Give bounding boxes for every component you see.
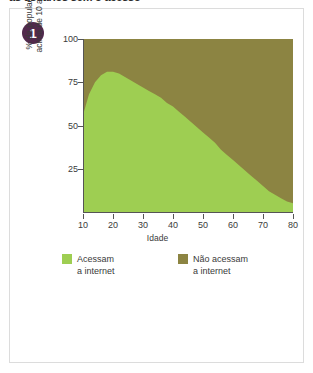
x-tick-mark-50 [203,214,204,219]
y-axis-tick-75: 75 [52,77,78,87]
x-axis-tick-30: 30 [138,220,148,230]
x-tick-mark-70 [263,214,264,219]
x-axis-tick-50: 50 [198,220,208,230]
chart-plot-wrapper: % da população acima de 10 anos 25507510… [10,9,305,259]
legend-label: Acessama internet [77,254,115,277]
y-axis-tick-labels: 255075100 [52,9,78,259]
y-axis-tick-25: 25 [52,164,78,174]
legend-swatch-icon [62,254,72,264]
x-tick-mark-20 [113,214,114,219]
y-axis-label-line2: acima de 10 anos [34,0,44,69]
x-axis-tick-40: 40 [168,220,178,230]
plot-area [83,39,293,212]
y-axis-line [83,39,84,212]
x-axis-tick-10: 10 [78,220,88,230]
legend-label: Não acessama internet [193,254,248,277]
x-tick-mark-40 [173,214,174,219]
x-axis-tick-70: 70 [258,220,268,230]
y-axis-tick-50: 50 [52,121,78,131]
legend-swatch-icon [178,254,188,264]
x-axis-line [83,212,293,213]
y-tick-mark-100 [78,39,83,40]
legend-item-1[interactable]: Acessama internet [62,254,115,277]
x-axis-tick-80: 80 [288,220,298,230]
y-axis-label-line1: % da população [24,0,34,69]
chart-card: 1 % da população acima de 10 anos 255075… [9,8,304,363]
x-tick-mark-10 [83,214,84,219]
x-tick-mark-60 [233,214,234,219]
area-polygon-acessam [83,72,293,212]
y-tick-mark-50 [78,126,83,127]
legend-item-2[interactable]: Não acessama internet [178,254,248,277]
x-axis-tick-60: 60 [228,220,238,230]
x-tick-mark-30 [143,214,144,219]
area-series-acessam [83,39,293,212]
y-axis-tick-100: 100 [52,34,78,44]
y-tick-mark-75 [78,82,83,83]
x-tick-mark-80 [293,214,294,219]
y-tick-mark-25 [78,169,83,170]
x-axis-tick-20: 20 [108,220,118,230]
x-axis-label: Idade [10,233,305,243]
chart-legend: Acessama internetNão acessama internet [10,254,305,294]
